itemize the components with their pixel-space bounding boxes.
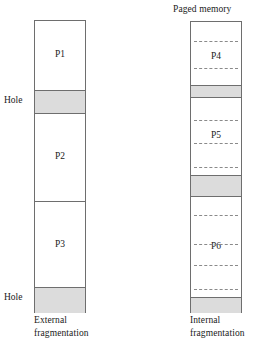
- page-boundary-dash: [194, 68, 238, 69]
- memory-segment-label: P3: [35, 239, 85, 249]
- memory-segment-p6: P6: [191, 197, 241, 297]
- external-fragmentation-caption-line2: fragmentation: [34, 328, 89, 338]
- page-boundary-dash: [194, 244, 238, 245]
- page-boundary-dash: [194, 120, 238, 121]
- memory-hole-top: [35, 90, 85, 114]
- page-boundary-dash: [194, 167, 238, 168]
- memory-fragmentation-diagram: Paged memory P1 P2 P3 Hole Hole External…: [0, 0, 261, 358]
- memory-segment-label: P1: [35, 49, 85, 59]
- memory-hole-bottom: [35, 287, 85, 313]
- paged-memory-column: P4 P5 P6: [190, 21, 242, 313]
- external-fragmentation-caption-line1: External: [34, 315, 67, 325]
- page-boundary-dash: [194, 41, 238, 42]
- paged-memory-hole-2: [191, 175, 241, 197]
- internal-fragmentation-caption-line2: fragmentation: [190, 328, 245, 338]
- memory-segment-label: P6: [191, 241, 241, 251]
- page-boundary-dash: [194, 289, 238, 290]
- paged-memory-hole-3: [191, 297, 241, 313]
- hole-label-bottom: Hole: [4, 292, 22, 302]
- memory-segment-p4: P4: [191, 22, 241, 85]
- memory-segment-p2: P2: [35, 114, 85, 201]
- contiguous-memory-column: P1 P2 P3: [34, 20, 86, 313]
- memory-segment-p5: P5: [191, 98, 241, 175]
- page-boundary-dash: [194, 143, 238, 144]
- memory-segment-p1: P1: [35, 21, 85, 90]
- internal-fragmentation-caption-line1: Internal: [190, 315, 220, 325]
- paged-memory-hole-1: [191, 85, 241, 98]
- memory-segment-label: P2: [35, 151, 85, 161]
- page-boundary-dash: [194, 265, 238, 266]
- page-boundary-dash: [194, 215, 238, 216]
- memory-segment-p3: P3: [35, 201, 85, 287]
- hole-label-top: Hole: [4, 95, 22, 105]
- memory-segment-label: P5: [191, 130, 241, 140]
- memory-segment-label: P4: [191, 51, 241, 61]
- paged-memory-title: Paged memory: [173, 4, 231, 14]
